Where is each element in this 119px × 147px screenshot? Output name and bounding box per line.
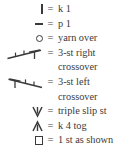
- equals-sign: =: [44, 46, 57, 61]
- legend-row-continuation: = crossover: [0, 90, 119, 105]
- equals-sign: =: [44, 31, 57, 46]
- legend-description: triple slip st: [57, 104, 119, 119]
- legend-description-continuation: crossover: [57, 90, 119, 105]
- legend-row: = 1 st as shown: [0, 133, 119, 147]
- legend-description: 3-st left: [57, 75, 119, 90]
- knit-four-together-icon: [32, 121, 43, 132]
- legend-row: = 3-st left: [0, 75, 119, 90]
- legend-description: yarn over: [57, 31, 119, 46]
- vertical-bar-icon: [41, 4, 43, 14]
- legend-description: k 1: [57, 2, 119, 17]
- legend-row: = yarn over: [0, 31, 119, 46]
- knit-four-together-symbol: [0, 119, 44, 134]
- legend-row: = k 1: [0, 2, 119, 17]
- legend-row: = 3-st right: [0, 46, 119, 61]
- open-circle-symbol: [0, 31, 44, 46]
- circle-icon: [36, 35, 43, 42]
- three-stitch-left-crossover-symbol: [0, 75, 44, 90]
- right-crossover-icon: [7, 47, 43, 60]
- triple-slip-stitch-symbol: [0, 104, 44, 119]
- equals-sign: =: [44, 75, 57, 90]
- equals-sign: =: [44, 133, 57, 147]
- legend-description: 3-st right: [57, 46, 119, 61]
- equals-sign: =: [44, 17, 57, 32]
- triple-slip-stitch-icon: [32, 106, 43, 117]
- legend-description: 1 st as shown: [57, 133, 119, 147]
- legend-description: p 1: [57, 17, 119, 32]
- knitting-chart-legend: = k 1 = p 1 = yarn over = 3-st right: [0, 0, 119, 147]
- horizontal-dash-icon: [35, 23, 43, 25]
- legend-row: = triple slip st: [0, 104, 119, 119]
- open-square-symbol: [0, 133, 44, 147]
- three-stitch-right-crossover-symbol: [0, 46, 44, 61]
- legend-row-continuation: = crossover: [0, 60, 119, 75]
- legend-description: k 4 tog: [57, 119, 119, 134]
- left-crossover-icon: [7, 76, 43, 89]
- legend-row: = p 1: [0, 17, 119, 32]
- legend-row: = k 4 tog: [0, 119, 119, 134]
- vertical-bar-symbol: [0, 2, 44, 17]
- legend-description-continuation: crossover: [57, 60, 119, 75]
- equals-sign: =: [44, 119, 57, 134]
- horizontal-dash-symbol: [0, 17, 44, 32]
- equals-sign: =: [44, 104, 57, 119]
- square-icon: [35, 136, 44, 145]
- equals-sign: =: [44, 2, 57, 17]
